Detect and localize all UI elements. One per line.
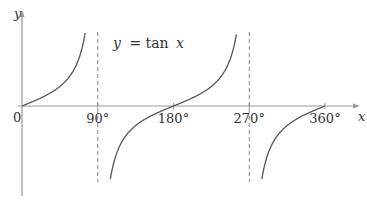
x-tick-label: 360° [309,111,340,126]
tan-graph: y x 0 90°180°270°360° y = tan x [0,0,367,200]
y-axis-label: y [13,6,22,21]
origin-label: 0 [13,110,21,125]
x-tick-label: 180° [158,111,189,126]
x-tick-labels: 90°180°270°360° [86,111,340,126]
tan-curve-branch [22,33,85,106]
equation-label: y = tan x [112,35,184,51]
tan-curve-branch [110,34,236,179]
x-axis-arrow-icon [353,104,360,109]
x-tick-label: 270° [234,111,265,126]
x-axis-label: x [358,109,366,124]
x-tick-label: 90° [86,111,109,126]
